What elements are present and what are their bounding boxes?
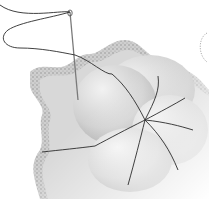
illustration-canvas	[0, 0, 209, 199]
sewing-illustration	[0, 0, 209, 199]
